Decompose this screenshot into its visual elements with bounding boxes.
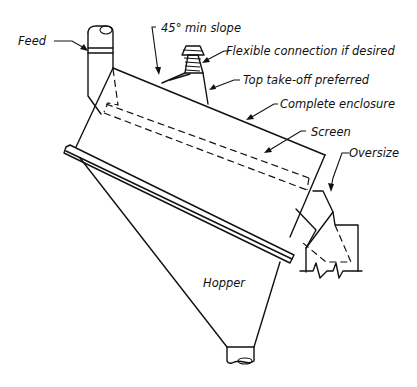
label-oversize: Oversize [349, 146, 399, 160]
label-screen: Screen [311, 125, 351, 139]
label-hopper: Hopper [203, 276, 246, 290]
feed-pipe [88, 26, 113, 114]
label-complete-enclosure: Complete enclosure [280, 97, 395, 111]
label-feed: Feed [18, 34, 47, 48]
oversize-chute [296, 191, 362, 278]
screen-enclosure-diagram: Feed 45° min slope Flexible connection i… [0, 0, 417, 387]
enclosure-box [76, 68, 325, 237]
label-min-slope: 45° min slope [161, 21, 241, 35]
hopper [80, 158, 280, 364]
top-takeoff [162, 46, 208, 104]
flange-bar [64, 145, 294, 263]
label-top-takeoff: Top take-off preferred [243, 73, 370, 87]
label-flexible-connection: Flexible connection if desired [226, 44, 395, 58]
